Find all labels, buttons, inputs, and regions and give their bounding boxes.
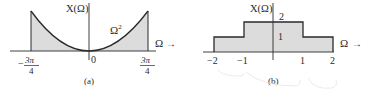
- panel-b-ytick-2: 2: [279, 11, 284, 22]
- panel-b-xtick-1: 1: [300, 55, 305, 66]
- panel-a-tick-left-num: 3π: [24, 55, 35, 65]
- panel-a-caption: (a): [84, 76, 94, 86]
- panel-a-x-axis-label: Ω: [155, 37, 163, 49]
- panel-a-tick-right-num: 3π: [140, 55, 151, 65]
- panel-a-arrow-icon: →: [166, 38, 176, 49]
- panel-a-tick-right-den: 4: [145, 66, 150, 76]
- panel-b-x-axis-label: Ω: [340, 37, 348, 49]
- panel-b-arrow-icon: →: [352, 38, 362, 49]
- panel-a-tick-left-den: 4: [29, 66, 34, 76]
- panel-b: X(Ω) 2 1 Ω → −2 −1 1 2 (b): [203, 3, 362, 88]
- panel-a: X(Ω) Ω2 Ω → 0 − 3π 4 3π 4 (a): [10, 3, 176, 86]
- panel-b-ytick-1: 1: [278, 31, 283, 42]
- panel-a-curve-exp: 2: [118, 23, 122, 31]
- panel-b-xtick-2: 2: [330, 55, 335, 66]
- figure: X(Ω) Ω2 Ω → 0 − 3π 4 3π 4 (a) X(Ω) 2 1 Ω…: [0, 0, 367, 96]
- panel-a-ylabel: X(Ω): [66, 3, 89, 15]
- panel-b-xtick-neg2: −2: [207, 55, 218, 66]
- panel-a-curve-label: Ω2: [110, 23, 122, 36]
- panel-b-ylabel: X(Ω): [250, 3, 273, 15]
- panel-a-curve-base: Ω: [110, 24, 118, 36]
- panel-a-tick-zero: 0: [91, 54, 96, 65]
- panel-a-tick-left-sign: −: [18, 58, 24, 69]
- panel-b-xtick-neg1: −1: [237, 55, 248, 66]
